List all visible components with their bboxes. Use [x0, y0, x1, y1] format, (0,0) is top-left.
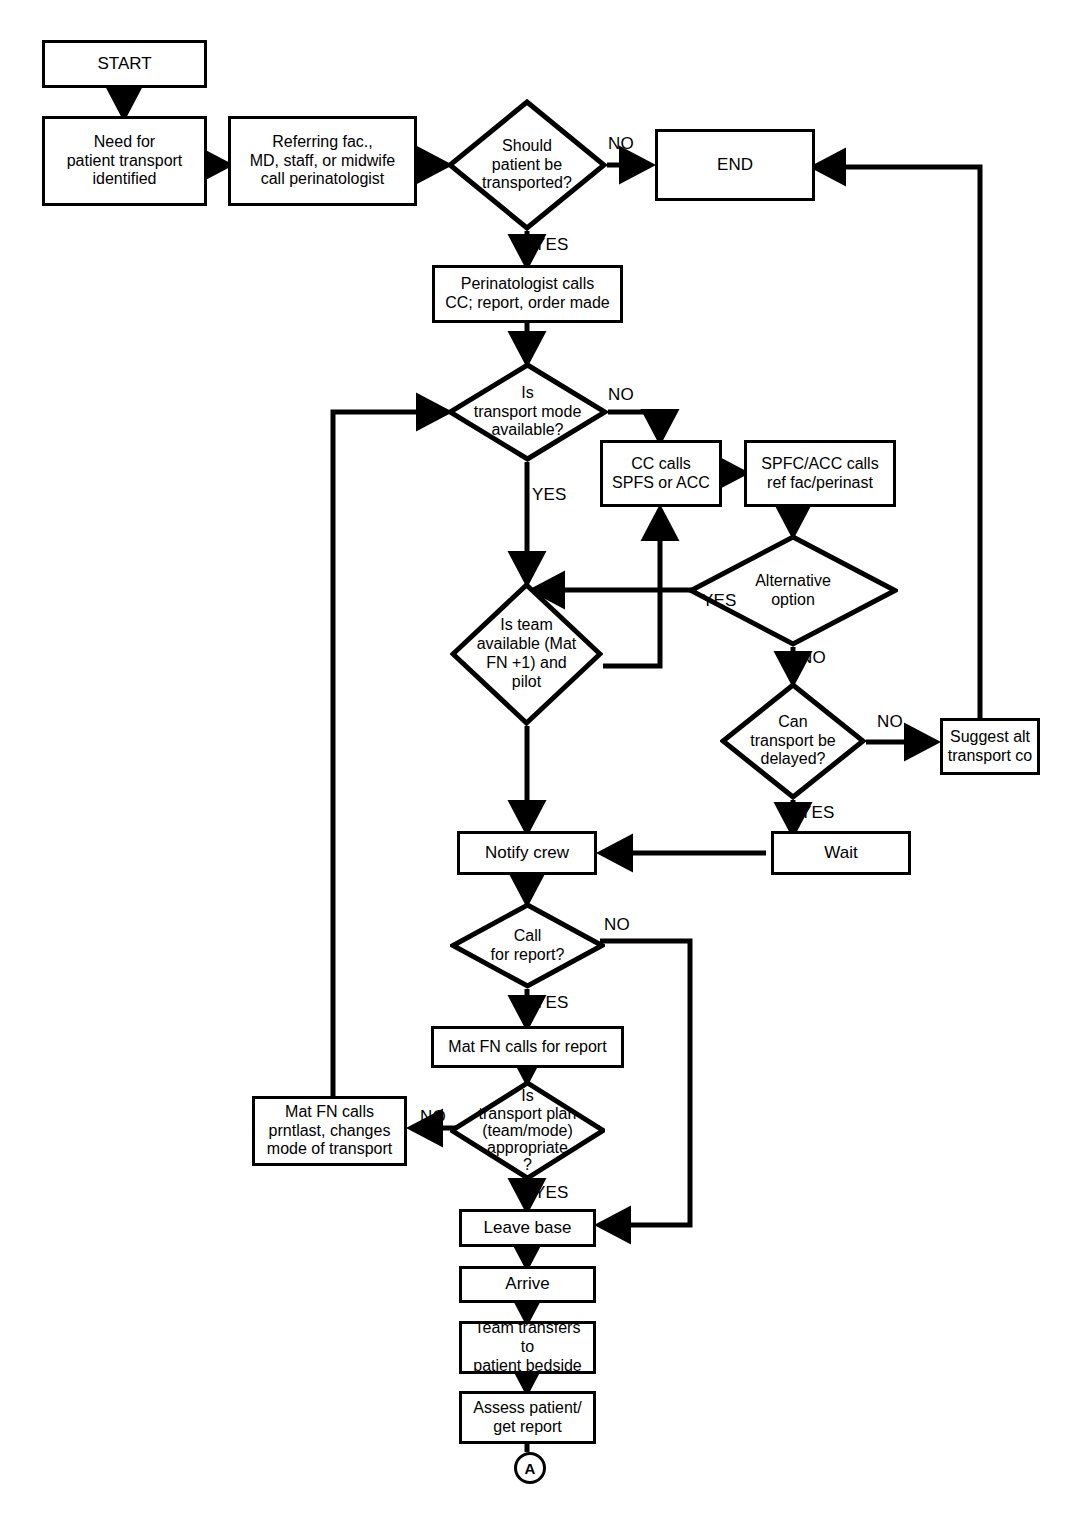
- node-assess-patient-label: Assess patient/ get report: [466, 1399, 589, 1437]
- node-call-for-report-label: Call for report?: [462, 927, 592, 965]
- node-mat-fn-calls-report[interactable]: Mat FN calls for report: [431, 1026, 624, 1068]
- node-alternative-option-label: Alternative option: [715, 572, 870, 610]
- node-should-transport-label: Should patient be transported?: [468, 137, 586, 194]
- edge-label-mode-available-yes: YES: [532, 485, 567, 505]
- edge-label-plan-yes: YES: [534, 1183, 569, 1203]
- node-arrive[interactable]: Arrive: [459, 1266, 596, 1303]
- node-mode-available[interactable]: Is transport mode available?: [447, 362, 608, 462]
- node-should-transport[interactable]: Should patient be transported?: [447, 99, 607, 231]
- node-wait-label: Wait: [778, 843, 904, 863]
- edge-label-call-report-yes: YES: [534, 993, 569, 1013]
- edge-label-mode-available-no: NO: [608, 385, 634, 405]
- node-need-transport[interactable]: Need for patient transport identified: [42, 116, 207, 206]
- connector-a-label: A: [525, 1460, 536, 1477]
- node-spfc-calls[interactable]: SPFC/ACC calls ref fac/perinast: [744, 440, 896, 507]
- node-can-delay[interactable]: Can transport be delayed?: [720, 682, 866, 800]
- node-team-available-label: Is team available (Mat FN +1) and pilot: [461, 616, 593, 692]
- node-spfc-calls-label: SPFC/ACC calls ref fac/perinast: [751, 455, 889, 493]
- node-arrive-label: Arrive: [466, 1274, 589, 1294]
- node-notify-crew[interactable]: Notify crew: [457, 831, 597, 875]
- node-leave-base[interactable]: Leave base: [459, 1209, 596, 1247]
- node-leave-base-label: Leave base: [466, 1218, 589, 1238]
- edge-label-plan-no: NO: [420, 1107, 446, 1127]
- node-perinatologist-calls[interactable]: Perinatologist calls CC; report, order m…: [432, 265, 623, 323]
- node-cc-calls-label: CC calls SPFS or ACC: [607, 455, 715, 493]
- edge-label-call-report-no: NO: [604, 915, 630, 935]
- node-team-available[interactable]: Is team available (Mat FN +1) and pilot: [450, 582, 603, 726]
- node-assess-patient[interactable]: Assess patient/ get report: [459, 1391, 596, 1444]
- node-start[interactable]: START: [42, 40, 207, 88]
- node-end-label: END: [662, 155, 808, 175]
- edge-label-alternative-no: NO: [800, 648, 826, 668]
- node-team-transfers-label: Team transfers to patient bedside: [466, 1319, 589, 1376]
- node-cc-calls[interactable]: CC calls SPFS or ACC: [600, 440, 722, 507]
- node-suggest-alt-transport[interactable]: Suggest alt transport co: [940, 718, 1040, 775]
- node-start-label: START: [49, 54, 200, 74]
- node-perinatologist-calls-label: Perinatologist calls CC; report, order m…: [439, 275, 616, 313]
- node-team-transfers[interactable]: Team transfers to patient bedside: [459, 1321, 596, 1374]
- flowchart-canvas: START Need for patient transport identif…: [0, 0, 1078, 1516]
- node-referring-facility-label: Referring fac., MD, staff, or midwife ca…: [235, 133, 410, 190]
- node-referring-facility[interactable]: Referring fac., MD, staff, or midwife ca…: [228, 116, 417, 206]
- node-call-for-report[interactable]: Call for report?: [450, 902, 605, 989]
- node-end[interactable]: END: [655, 129, 815, 201]
- node-need-transport-label: Need for patient transport identified: [49, 133, 200, 190]
- node-mat-fn-prntlast-label: Mat FN calls prntlast, changes mode of t…: [259, 1103, 400, 1160]
- node-mat-fn-prntlast[interactable]: Mat FN calls prntlast, changes mode of t…: [252, 1096, 407, 1166]
- edge-label-should-transport-no: NO: [608, 134, 634, 154]
- node-suggest-alt-transport-label: Suggest alt transport co: [947, 728, 1033, 766]
- node-plan-appropriate[interactable]: Is transport plan (team/mode) appropriat…: [450, 1081, 605, 1180]
- node-mat-fn-calls-report-label: Mat FN calls for report: [438, 1038, 617, 1057]
- node-wait[interactable]: Wait: [771, 831, 911, 875]
- node-can-delay-label: Can transport be delayed?: [726, 713, 860, 770]
- node-plan-appropriate-label: Is transport plan (team/mode) appropriat…: [453, 1087, 602, 1173]
- edge-label-can-delay-yes: YES: [800, 803, 835, 823]
- edge-label-should-transport-yes: YES: [534, 235, 569, 255]
- edge-label-can-delay-no: NO: [877, 712, 903, 732]
- node-notify-crew-label: Notify crew: [464, 843, 590, 863]
- connector-a[interactable]: A: [514, 1452, 546, 1484]
- edge-label-alternative-yes: YES: [702, 591, 737, 611]
- node-mode-available-label: Is transport mode available?: [457, 384, 599, 441]
